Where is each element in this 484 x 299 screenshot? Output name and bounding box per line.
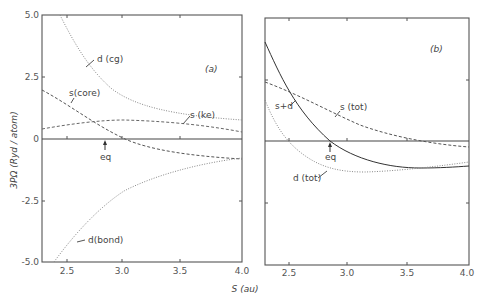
figure: 5.0 2.5 0 -2.5 -5.0 2.5 3.0 3.5 4.0 (a) … <box>0 0 484 299</box>
label-s-tot: s (tot) <box>340 102 367 112</box>
ytick-5: 5.0 <box>25 10 40 20</box>
panel-a-label: (a) <box>205 64 218 74</box>
eq-label-b: eq <box>325 152 336 162</box>
ytick-neg-2-5: -2.5 <box>21 196 39 206</box>
a-xtick-3-0: 3.0 <box>115 266 130 276</box>
ytick-0: 0 <box>33 134 39 144</box>
x-axis-label: S (au) <box>232 284 259 294</box>
panel-b: 2.5 3.0 3.5 4.0 (b) s+d s (tot) d (tot) … <box>265 18 474 278</box>
label-d-bond: d(bond) <box>88 235 123 245</box>
b-xtick-4-0: 4.0 <box>460 268 475 278</box>
leader-s-ke <box>183 116 190 124</box>
label-s-ke: s (ke) <box>190 110 215 120</box>
b-xtick-3-5: 3.5 <box>400 268 414 278</box>
a-xtick-3-5: 3.5 <box>173 266 187 276</box>
eq-label-a: eq <box>100 152 111 162</box>
a-xtick-2-5: 2.5 <box>60 266 74 276</box>
leader-d-bond <box>77 240 85 242</box>
eq-arrowhead-b <box>328 142 332 147</box>
leader-s-core <box>71 98 74 103</box>
curve-s-ke <box>42 120 242 132</box>
panel-a: 5.0 2.5 0 -2.5 -5.0 2.5 3.0 3.5 4.0 (a) … <box>21 10 249 276</box>
eq-arrowhead-a <box>103 140 107 145</box>
b-xtick-3-0: 3.0 <box>340 268 355 278</box>
curve-d-bond <box>54 158 242 262</box>
label-d-tot: d (tot) <box>293 173 321 183</box>
curve-s-tot <box>265 82 469 147</box>
label-s-core: s(core) <box>69 88 100 98</box>
panel-b-label: (b) <box>430 44 443 54</box>
y-axis-label: 3PΩ (Ryd / atom) <box>9 111 19 188</box>
a-xtick-4-0: 4.0 <box>235 266 250 276</box>
b-xtick-2-5: 2.5 <box>282 268 296 278</box>
ytick-neg-5: -5.0 <box>21 257 39 267</box>
label-d-cg: d (cg) <box>97 54 123 64</box>
ytick-2-5: 2.5 <box>25 72 39 82</box>
